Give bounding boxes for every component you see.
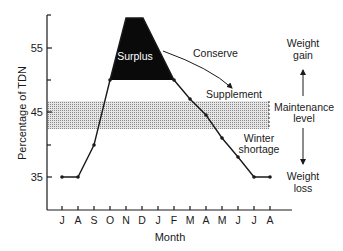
svg-text:J: J	[251, 214, 256, 226]
x-axis	[47, 206, 292, 210]
y-tick-55: 55	[31, 42, 43, 54]
svg-text:S: S	[90, 214, 97, 226]
level-label: level	[293, 112, 315, 124]
svg-text:F: F	[171, 214, 177, 226]
y-axis	[47, 15, 52, 210]
surplus-region	[110, 18, 174, 80]
svg-text:J: J	[235, 214, 240, 226]
month-labels: J A S O N D J F M A M J J A	[59, 214, 273, 226]
svg-text:J: J	[155, 214, 160, 226]
weight-gain-label-1: Weight	[287, 37, 320, 49]
maintenance-band	[47, 101, 269, 129]
x-axis-label: Month	[155, 231, 186, 243]
y-axis-label: Percentage of TDN	[16, 66, 28, 160]
y-tick-35: 35	[31, 171, 43, 183]
svg-text:A: A	[74, 214, 81, 226]
svg-text:A: A	[266, 214, 273, 226]
weight-loss-label-2: loss	[294, 182, 313, 194]
svg-text:M: M	[186, 214, 195, 226]
svg-text:D: D	[138, 214, 146, 226]
y-tick-45: 45	[31, 106, 43, 118]
conserve-label: Conserve	[193, 47, 238, 59]
shortage-label: shortage	[239, 143, 280, 155]
supplement-label: Supplement	[206, 88, 262, 100]
svg-text:M: M	[218, 214, 227, 226]
svg-text:J: J	[59, 214, 64, 226]
svg-text:O: O	[106, 214, 114, 226]
svg-text:A: A	[202, 214, 209, 226]
svg-text:N: N	[122, 214, 130, 226]
surplus-label: Surplus	[117, 50, 153, 62]
weight-gain-label-2: gain	[293, 49, 313, 61]
chart: 55 45 35 Percentage of TDN J A S O N D J…	[0, 0, 343, 251]
weight-loss-label-1: Weight	[287, 170, 320, 182]
